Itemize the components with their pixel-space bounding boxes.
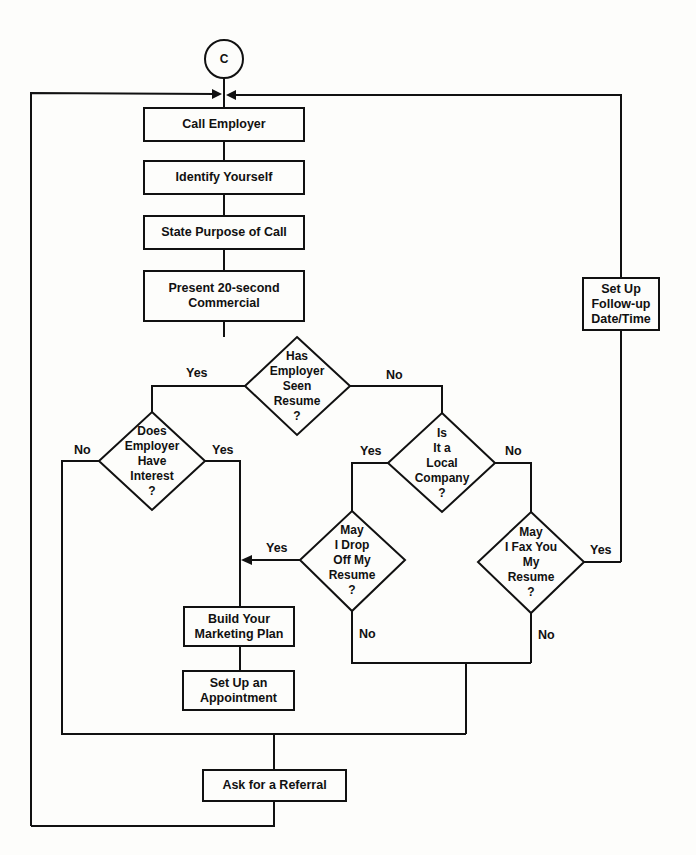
decision-drop-off-resume: May I Drop Off My Resume ? <box>329 523 376 598</box>
label-interest-yes: Yes <box>212 443 234 457</box>
label-interest-no: No <box>74 443 91 457</box>
decision-seen-resume: Has Employer Seen Resume ? <box>270 349 325 424</box>
label-local-yes: Yes <box>360 444 382 458</box>
present-commercial-box: Present 20-second Commercial <box>143 270 305 322</box>
label-seen-no: No <box>386 368 403 382</box>
decision-employer-interest: Does Employer Have Interest ? <box>125 424 180 499</box>
label-seen-yes: Yes <box>186 366 208 380</box>
build-marketing-plan-box: Build Your Marketing Plan <box>183 606 295 647</box>
label-local-no: No <box>505 444 522 458</box>
state-purpose-box: State Purpose of Call <box>143 215 305 250</box>
label-drop-yes: Yes <box>266 541 288 555</box>
label-fax-yes: Yes <box>590 543 612 557</box>
flowchart-connectors <box>0 0 696 855</box>
decision-local-company: Is It a Local Company ? <box>415 426 470 501</box>
label-fax-no: No <box>538 628 555 642</box>
set-up-appointment-box: Set Up an Appointment <box>182 670 295 711</box>
label-drop-no: No <box>359 627 376 641</box>
identify-yourself-box: Identify Yourself <box>143 160 305 195</box>
call-employer-box: Call Employer <box>143 107 305 142</box>
connector-label: C <box>220 52 229 66</box>
ask-referral-box: Ask for a Referral <box>202 769 347 802</box>
set-up-follow-up-box: Set Up Follow-up Date/Time <box>582 277 660 331</box>
connector-c: C <box>204 39 244 79</box>
decision-fax-resume: May I Fax You My Resume ? <box>505 525 557 600</box>
